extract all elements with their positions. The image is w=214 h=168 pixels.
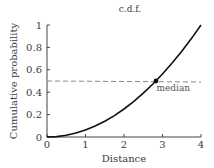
y-tick-label: 0.4: [26, 87, 42, 98]
x-tick-label: 1: [82, 139, 88, 150]
plot-area: median: [47, 25, 201, 137]
cdf-chart: c.d.f. Cumulative probability Distance 0…: [0, 0, 214, 168]
y-tick-label: 1: [36, 20, 42, 31]
x-axis-label: Distance: [102, 153, 146, 164]
median-label: median: [156, 83, 190, 93]
x-tick-label: 4: [198, 139, 204, 150]
y-axis-label: Cumulative probability: [8, 22, 19, 139]
median-reference-line: [47, 81, 201, 82]
y-tick-label: 0.2: [26, 109, 42, 120]
x-tick-label: 3: [159, 139, 165, 150]
x-tick-label: 0: [44, 139, 50, 150]
y-tick-label: 0: [36, 132, 42, 143]
y-tick-label: 0.8: [26, 42, 42, 53]
x-tick-label: 2: [121, 139, 127, 150]
y-tick-label: 0.6: [26, 64, 42, 75]
chart-title: c.d.f.: [119, 4, 142, 14]
